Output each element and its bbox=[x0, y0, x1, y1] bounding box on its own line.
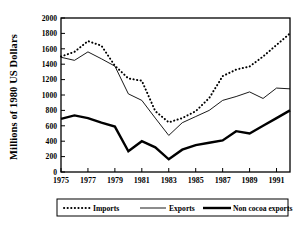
chart-figure: Millions of 1980 US Dollars 020040060080… bbox=[0, 0, 307, 230]
x-tick-label: 1991 bbox=[269, 176, 285, 185]
y-tick-label: 1400 bbox=[42, 60, 57, 69]
y-tick-label: 400 bbox=[46, 137, 58, 146]
y-tick-label: 1800 bbox=[42, 29, 57, 38]
x-tick-label: 1983 bbox=[161, 176, 177, 185]
series-line-2 bbox=[61, 110, 290, 159]
line-chart: Millions of 1980 US Dollars 020040060080… bbox=[0, 0, 307, 230]
legend-label-2[interactable]: Non cocoa exports bbox=[233, 204, 293, 213]
y-axis-title-text: Millions of 1980 US Dollars bbox=[8, 34, 19, 160]
series-line-1 bbox=[61, 52, 290, 136]
y-tick-label: 600 bbox=[46, 122, 58, 131]
series-layer bbox=[61, 33, 290, 159]
y-tick-label: 2000 bbox=[42, 14, 57, 23]
chart-legend: ImportsExportsNon cocoa exports bbox=[57, 199, 293, 216]
series-line-0 bbox=[61, 33, 290, 122]
x-tick-label: 1979 bbox=[107, 176, 123, 185]
x-tick-label: 1981 bbox=[134, 176, 150, 185]
legend-label-0[interactable]: Imports bbox=[93, 204, 119, 213]
y-tick-label: 1600 bbox=[42, 45, 57, 54]
x-axis-ticks: 197519771979198119831985198719891991 bbox=[53, 168, 285, 185]
x-tick-label: 1975 bbox=[53, 176, 69, 185]
x-tick-label: 1985 bbox=[188, 176, 204, 185]
x-tick-label: 1977 bbox=[80, 176, 96, 185]
y-tick-label: 1200 bbox=[42, 75, 57, 84]
y-tick-label: 200 bbox=[46, 152, 58, 161]
x-tick-label: 1987 bbox=[215, 176, 231, 185]
y-tick-label: 800 bbox=[46, 106, 58, 115]
y-axis-title: Millions of 1980 US Dollars bbox=[8, 34, 19, 160]
legend-label-1[interactable]: Exports bbox=[169, 204, 195, 213]
x-tick-label: 1989 bbox=[242, 176, 258, 185]
y-tick-label: 1000 bbox=[42, 91, 57, 100]
